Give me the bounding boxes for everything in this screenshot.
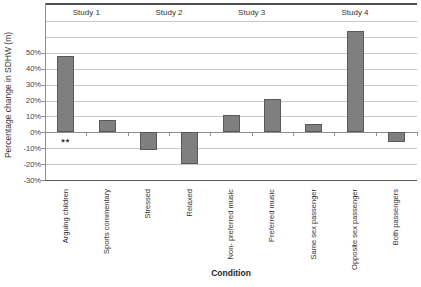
study-group-label: Study 3: [238, 8, 265, 17]
y-tick-label: 30%: [0, 80, 41, 89]
category-label: Both passengers: [391, 189, 401, 245]
bar: [305, 124, 322, 132]
study-group-label: Study 4: [341, 8, 368, 17]
y-tick-label: 20%: [0, 96, 41, 105]
bar: [140, 132, 157, 150]
y-axis-line: [45, 3, 46, 180]
y-tick-mark: [41, 116, 45, 117]
x-tick-mark: [86, 132, 87, 136]
y-tick-label: 0%: [0, 128, 41, 137]
x-tick-mark: [417, 132, 418, 136]
category-label: Preferred music: [267, 189, 277, 242]
bar: [347, 31, 364, 133]
x-tick-mark: [293, 132, 294, 136]
x-tick-mark: [128, 132, 129, 136]
y-tick-label: 40%: [0, 64, 41, 73]
category-label: Non- preferred music: [226, 189, 236, 259]
y-tick-label: -10%: [0, 144, 41, 153]
bar: [181, 132, 198, 164]
plot-bottom-border: [45, 180, 417, 181]
bar: [223, 115, 240, 133]
bar: [99, 120, 116, 133]
gridline: [45, 164, 417, 165]
y-tick-mark: [41, 164, 45, 165]
y-tick-label: -20%: [0, 160, 41, 169]
x-tick-mark: [376, 132, 377, 136]
category-label: Arguing children: [61, 189, 71, 243]
x-tick-mark: [252, 132, 253, 136]
y-tick-mark: [41, 85, 45, 86]
x-tick-mark: [334, 132, 335, 136]
y-tick-label: 10%: [0, 112, 41, 121]
y-tick-label: -30%: [0, 176, 41, 185]
category-label: Relaxed: [185, 189, 195, 217]
y-tick-label: 50%: [0, 48, 41, 57]
y-tick-mark: [41, 69, 45, 70]
significance-marker: **: [61, 138, 70, 146]
study-group-label: Study 2: [155, 8, 182, 17]
x-tick-mark: [169, 132, 170, 136]
y-tick-mark: [41, 101, 45, 102]
gridline: [45, 21, 417, 22]
bar: [264, 99, 281, 132]
y-tick-mark: [41, 148, 45, 149]
category-label: Same sex passenger: [309, 189, 319, 259]
x-axis-title: Condition: [211, 268, 251, 278]
category-label: Sports commentary: [102, 189, 112, 254]
study-group-label: Study 1: [73, 8, 100, 17]
plot-top-border: [45, 3, 417, 5]
gridline: [45, 148, 417, 149]
x-axis-line: [45, 132, 417, 133]
y-tick-mark: [41, 180, 45, 181]
category-label: Opposite sex passenger: [350, 189, 360, 270]
bar: [57, 56, 74, 132]
bar-chart-figure: Percentage change in SDHW (m) Condition …: [0, 0, 421, 287]
x-tick-mark: [45, 132, 46, 136]
bar: [388, 132, 405, 142]
x-tick-mark: [210, 132, 211, 136]
category-label: Stressed: [143, 189, 153, 219]
y-tick-mark: [41, 53, 45, 54]
